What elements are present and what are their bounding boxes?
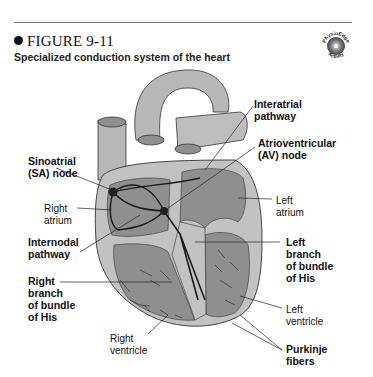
left-atrium-chamber	[180, 169, 246, 228]
label-interatrial-pathway: Interatrial pathway	[254, 98, 302, 122]
label-left-atrium: Left atrium	[276, 195, 304, 219]
label-av-node: Atrioventricular (AV) node	[258, 137, 336, 161]
label-right-atrium: Right atrium	[44, 203, 72, 227]
label-internodal-pathway: Internodal pathway	[28, 236, 79, 260]
label-right-ventricle: Right ventricle	[110, 333, 147, 357]
vena-cava-opening	[98, 117, 126, 127]
pulmonary-opening	[175, 144, 201, 154]
aorta-opening	[138, 135, 164, 145]
label-left-branch-bundle-of-his: Left branch of bundle of His	[286, 236, 333, 284]
label-purkinje-fibers: Purkinje fibers	[286, 343, 327, 367]
label-right-branch-bundle-of-his: Right branch of bundle of His	[28, 275, 75, 323]
label-sa-node: Sinoatrial (SA) node	[28, 155, 78, 179]
label-left-ventricle: Left ventricle	[286, 304, 323, 328]
